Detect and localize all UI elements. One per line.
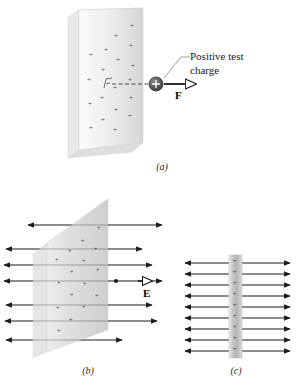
- figure-electric-field-sheet: + + + + + + + + + + + + + + + + + + +: [0, 0, 304, 386]
- force-vector-label: F: [175, 89, 182, 101]
- sheet-left-edge-b: [33, 243, 47, 358]
- svg-text:+: +: [113, 84, 117, 92]
- svg-text:+: +: [101, 116, 105, 124]
- svg-text:+: +: [88, 100, 92, 108]
- svg-text:+: +: [101, 66, 105, 74]
- svg-text:+: +: [114, 32, 118, 40]
- callout-line1: Positive test: [190, 50, 243, 62]
- svg-text:+: +: [131, 62, 135, 70]
- figure-canvas: + + + + + + + + + + + + + + + + + + +: [0, 0, 304, 386]
- panel-label-c: (c): [230, 365, 242, 377]
- panel-a: + + + + + + + + + + + + + + + + + + +: [68, 8, 243, 173]
- svg-text:+: +: [130, 22, 134, 30]
- field-point-marker-b: [114, 279, 118, 283]
- callout-leader-a: [164, 57, 190, 78]
- svg-text:+: +: [113, 126, 117, 134]
- svg-text:+: +: [129, 42, 133, 50]
- charged-sheet-b: [33, 199, 108, 358]
- E-vector-label: E: [143, 287, 150, 299]
- panel-label-b: (b): [82, 365, 94, 377]
- svg-text:+: +: [89, 124, 93, 132]
- svg-text:+: +: [116, 56, 120, 64]
- sheet-left-edge-a: [68, 10, 79, 158]
- svg-text:+: +: [128, 112, 132, 120]
- panel-label-a: (a): [156, 161, 168, 173]
- panel-b: + + + + + + + + + + + + + + + + E (b): [4, 199, 162, 377]
- panel-c: + + + + + + + + + (c): [185, 255, 290, 377]
- positive-test-charge-a: [149, 77, 163, 91]
- svg-text:+: +: [100, 94, 104, 102]
- callout-line2: charge: [190, 64, 219, 76]
- svg-text:+: +: [114, 106, 118, 114]
- svg-text:+: +: [87, 76, 91, 84]
- svg-text:+: +: [129, 94, 133, 102]
- svg-text:+: +: [104, 46, 108, 54]
- svg-text:+: +: [128, 76, 132, 84]
- svg-text:+: +: [89, 51, 93, 59]
